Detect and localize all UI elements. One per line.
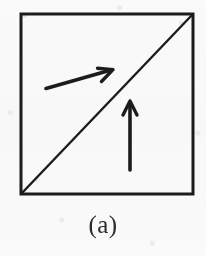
figure-caption: (a) [0,208,206,242]
upper-left-arrow [46,68,113,88]
diagonal-line [22,15,192,193]
figure-container: (a) [0,0,206,256]
lower-right-arrow [123,101,137,170]
upper-left-arrow-shaft [46,70,111,89]
